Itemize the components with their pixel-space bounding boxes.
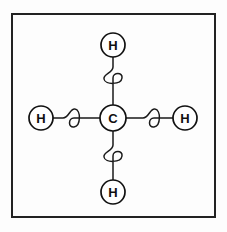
bond-c-h-bottom [104,131,122,180]
hydrogen-left-label: H [36,111,45,126]
hydrogen-bottom-label: H [108,185,117,200]
hydrogen-top-label: H [108,38,117,53]
bond-c-h-left [53,109,100,127]
atom-hydrogen-right: H [173,106,197,130]
bond-c-h-right [126,109,173,127]
atom-hydrogen-left: H [29,106,53,130]
atom-hydrogen-bottom: H [101,180,125,204]
bond-c-h-top [104,57,122,105]
atom-hydrogen-top: H [101,33,125,57]
molecule-diagram-canvas: H H H H C [0,0,227,232]
hydrogen-right-label: H [180,111,189,126]
methane-molecule-figure: H H H H C [0,0,227,232]
atom-carbon-center: C [100,105,126,131]
carbon-center-label: C [108,111,118,126]
